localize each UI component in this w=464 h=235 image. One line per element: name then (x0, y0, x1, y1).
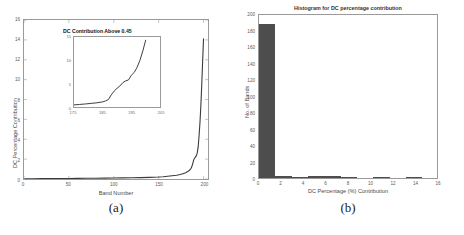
histogram-bar (275, 176, 291, 178)
panel-b-ytick: 200 (238, 12, 255, 17)
panel-b-xlabel: DC Percentage (%) Contribution (232, 188, 464, 194)
panel-a-xtick: 100 (110, 182, 118, 187)
inset-title: DC Contribution Above 0.45 (63, 28, 132, 34)
panel-b-xtick: 8 (347, 181, 350, 186)
inset-xtick: 195 (127, 110, 137, 115)
histogram-bar (308, 176, 324, 178)
inset-ytick: 10 (60, 58, 71, 63)
panel-b-xtick: 2 (279, 181, 282, 186)
histogram-bar (324, 176, 340, 178)
panel-a-ytick: 0 (4, 178, 20, 183)
panel-a-ytick: 14 (4, 37, 20, 42)
panel-b: Histogram for DC percentage contribution… (232, 0, 464, 235)
panel-a: DC Percentage Contribution 0246810121416… (0, 0, 232, 235)
panel-a-xtick: 150 (155, 182, 163, 187)
panel-a-ytick: 12 (4, 57, 20, 62)
histogram-bar (259, 24, 275, 178)
panel-a-ytick: 4 (4, 137, 20, 142)
figure-container: DC Percentage Contribution 0246810121416… (0, 0, 464, 235)
panel-b-plot-area (258, 14, 438, 179)
histogram-bar (292, 177, 308, 178)
histogram-bar (341, 177, 357, 178)
panel-b-xtick: 10 (368, 181, 373, 186)
inset-ytick: 5 (60, 82, 71, 87)
panel-b-ytick: 140 (238, 61, 255, 66)
panel-a-ytick: 8 (4, 97, 20, 102)
panel-a-ytick: 16 (4, 17, 20, 22)
panel-b-ytick: 20 (238, 160, 255, 165)
panel-b-xtick: 4 (302, 181, 305, 186)
panel-b-xtick: 16 (435, 181, 440, 186)
histogram-bar (373, 177, 389, 178)
inset-ytick: 15 (60, 34, 71, 39)
panel-b-ytick: 40 (238, 144, 255, 149)
panel-b-ytick: 60 (238, 127, 255, 132)
inset-xtick: 175 (68, 110, 78, 115)
panel-a-inset: DC Contribution Above 0.45 051015 175185… (59, 28, 165, 120)
panel-b-xtick: 12 (390, 181, 395, 186)
caption-b: (b) (232, 200, 464, 216)
panel-b-xtick: 0 (257, 181, 260, 186)
panel-a-xlabel: Band Number (0, 190, 232, 196)
panel-a-ytick: 2 (4, 157, 20, 162)
panel-b-ytick: 80 (238, 111, 255, 116)
panel-b-ytick: 180 (238, 28, 255, 33)
inset-xtick: 185 (97, 110, 107, 115)
panel-b-xtick: 14 (413, 181, 418, 186)
panel-a-ytick: 6 (4, 117, 20, 122)
inset-xtick: 205 (156, 110, 166, 115)
panel-a-ytick: 10 (4, 77, 20, 82)
panel-b-ytick: 120 (238, 78, 255, 83)
histogram-bar (406, 177, 422, 178)
panel-b-ytick: 100 (238, 94, 255, 99)
panel-b-ytick: 0 (238, 177, 255, 182)
caption-a: (a) (0, 200, 232, 216)
panel-b-xtick: 6 (324, 181, 327, 186)
panel-a-xtick: 50 (66, 182, 71, 187)
inset-line-svg (74, 37, 160, 107)
inset-plot-area (73, 36, 161, 108)
panel-a-xtick: 0 (22, 182, 25, 187)
histogram-bars (259, 15, 437, 178)
panel-b-ytick: 160 (238, 45, 255, 50)
panel-a-xtick: 200 (201, 182, 209, 187)
panel-b-title: Histogram for DC percentage contribution (232, 5, 464, 11)
